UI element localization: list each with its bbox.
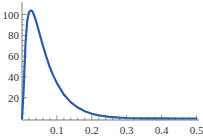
x-axis-labels: 0.10.20.30.40.5	[50, 124, 203, 136]
y-tick-label: 20	[8, 92, 20, 104]
y-axis-labels: 20406080100	[3, 9, 20, 104]
x-tick-label: 0.2	[85, 124, 99, 136]
y-tick-label: 100	[3, 9, 20, 21]
y-tick-label: 80	[8, 29, 20, 41]
density-curve	[22, 10, 197, 118]
y-tick-label: 40	[8, 71, 20, 83]
y-tick-label: 60	[8, 50, 20, 62]
x-tick-label: 0.3	[120, 124, 134, 136]
x-tick-label: 0.1	[50, 124, 64, 136]
x-tick-label: 0.5	[190, 124, 203, 136]
x-tick-label: 0.4	[155, 124, 169, 136]
density-chart: 0.10.20.30.40.5 20406080100	[0, 0, 203, 139]
